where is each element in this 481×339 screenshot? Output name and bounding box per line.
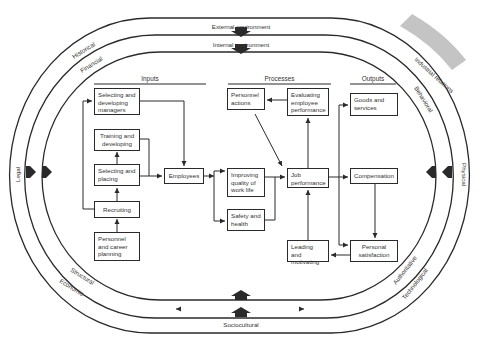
column-header-processes: Processes xyxy=(228,75,331,82)
box-goods-services: Goods and services xyxy=(350,93,398,116)
box-selecting-developing-managers: Selecting and developing managers xyxy=(94,88,140,115)
ring-label-economic: Economic xyxy=(58,277,85,297)
box-job-performance: Job performance xyxy=(287,168,329,188)
box-compensation: Compensation xyxy=(350,168,398,184)
ring-label-behavioral: Behavioral xyxy=(413,85,434,114)
box-personal-satisfaction: Personal satisfaction xyxy=(350,240,398,262)
up-arrow-icon xyxy=(231,290,251,300)
left-arrow-icon xyxy=(442,166,452,178)
internal-environment-label: Internal environment xyxy=(213,41,270,48)
right-arrow-icon xyxy=(26,166,36,178)
external-environment-label: External environment xyxy=(212,23,271,30)
ring-label-legal: Legal xyxy=(14,167,21,182)
box-training-developing: Training and developing xyxy=(94,129,140,151)
box-safety-health: Safety and health xyxy=(227,209,265,231)
box-selecting-placing: Selecting and placing xyxy=(94,164,140,186)
column-header-outputs: Outputs xyxy=(350,75,396,82)
column-header-inputs: Inputs xyxy=(94,75,206,82)
box-improving-quality-work-life: Improving quality of work life xyxy=(227,168,265,197)
ring-label-financial: Financial xyxy=(79,55,104,74)
box-employees: Employees xyxy=(164,168,204,184)
personnel-system-diagram: External environment Internal environmen… xyxy=(0,0,481,339)
ring-label-sociocultural: Sociocultural xyxy=(223,321,258,328)
box-personnel-actions: Personnel actions xyxy=(227,88,265,110)
ring-label-physical: Physical xyxy=(461,163,468,186)
up-arrow-icon xyxy=(231,307,251,317)
box-evaluating-employee-performance: Evaluating employee performance xyxy=(287,88,329,116)
right-arrow-icon xyxy=(42,166,52,178)
industrial-relations-band xyxy=(400,14,466,70)
box-recruiting: Recruiting xyxy=(94,201,140,218)
left-arrow-icon xyxy=(426,166,436,178)
box-leading-motivating: Leading and motivating xyxy=(287,240,329,262)
box-personnel-career-planning: Personnel and career planning xyxy=(94,232,140,261)
